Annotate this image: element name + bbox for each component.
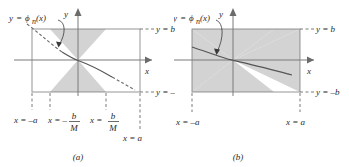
- panel-b-caption: (b): [233, 152, 244, 162]
- y-axis-label-a: y: [63, 9, 68, 19]
- panel-a-svg: y = ϕ n (x) y x y = b y = –b x = –a: [0, 0, 175, 167]
- corner-label-pos-a-a: x = a: [122, 133, 143, 143]
- bottom-label-pos-a-b: x = a: [285, 117, 306, 127]
- y-eq-negb-label-b: y = –b: [315, 87, 340, 97]
- bottom-label-pos-bm-denominator-a: M: [108, 123, 117, 133]
- bottom-label-neg-a-b: x = –a: [175, 117, 200, 127]
- bottom-label-pos-bm-a: x = b M: [89, 111, 119, 133]
- x-axis-arrow-b: [307, 57, 314, 64]
- x-axis-label-a: x: [144, 66, 149, 76]
- x-axis-label-b: x: [306, 66, 311, 76]
- phi-label-phi-b: ϕ: [189, 13, 194, 23]
- phi-label-phi-a: ϕ: [25, 13, 30, 23]
- phi-label-arg-a: (x): [36, 13, 46, 23]
- phi-label-y-b: y: [174, 13, 177, 23]
- phi-curve-dashed-right-a: [112, 77, 135, 90]
- y-eq-b-label-a: y = b: [155, 24, 175, 34]
- bottom-label-neg-a-a: x = –a: [13, 115, 38, 125]
- y-eq-b-label-b: y = b: [315, 24, 336, 34]
- y-eq-negb-label-a: y = –b: [155, 87, 175, 97]
- bottom-label-neg-bm-denominator-a: M: [69, 123, 78, 133]
- phi-label-eq-a: =: [16, 13, 22, 23]
- y-axis-arrow-b: [230, 8, 237, 16]
- panel-a: y = ϕ n (x) y x y = b y = –b x = –a: [0, 0, 175, 167]
- y-axis-label-b: y: [218, 9, 223, 19]
- bottom-label-neg-bm-a: x = – b M: [47, 111, 80, 133]
- bottom-label-neg-bm-numerator-a: b: [72, 111, 77, 121]
- panel-b: y = ϕ n (x) y x y = b y = –b x = –a x = …: [174, 0, 349, 167]
- bottom-label-pos-bm-numerator-a: b: [111, 111, 116, 121]
- bottom-label-pos-bm-prefix-a: x =: [89, 115, 102, 125]
- phi-function-label-b: y = ϕ n (x): [174, 13, 210, 26]
- phi-label-arg-b: (x): [200, 13, 210, 23]
- y-axis-arrow-a: [75, 8, 82, 16]
- panel-a-caption: (a): [73, 152, 84, 162]
- figure-container: y = ϕ n (x) y x y = b y = –b x = –a: [0, 0, 349, 167]
- x-axis-arrow-a: [145, 57, 152, 64]
- phi-label-leader-arrowhead-a: [56, 42, 62, 48]
- panel-b-svg: y = ϕ n (x) y x y = b y = –b x = –a x = …: [174, 0, 349, 167]
- bottom-label-neg-bm-prefix-a: x = –: [47, 115, 68, 125]
- phi-label-y-a: y: [8, 13, 13, 23]
- phi-label-eq-b: =: [180, 13, 186, 23]
